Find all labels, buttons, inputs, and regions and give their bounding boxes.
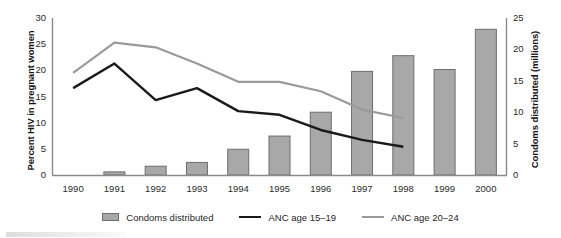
legend-label-anc-age-20-24: ANC age 20–24 xyxy=(391,212,459,223)
chart-legend: Condoms distributed ANC age 15–19 ANC ag… xyxy=(0,206,561,228)
legend-item-anc-age-15-19: ANC age 15–19 xyxy=(239,212,336,223)
line-swatch-icon-15-19 xyxy=(239,216,261,218)
line-swatch-icon-20-24 xyxy=(362,216,384,218)
bar xyxy=(186,162,207,175)
bar xyxy=(434,70,455,176)
bar xyxy=(145,166,166,175)
chart-container: Percent HIV in pregnant women Condoms di… xyxy=(0,0,561,238)
legend-label-anc-age-15-19: ANC age 15–19 xyxy=(268,212,336,223)
bar xyxy=(310,112,331,175)
legend-item-condoms-distributed: Condoms distributed xyxy=(102,212,213,223)
bar xyxy=(352,71,373,175)
bar xyxy=(269,136,290,175)
bar xyxy=(393,56,414,175)
bar-swatch-icon xyxy=(102,213,119,221)
bar xyxy=(104,172,125,175)
bar xyxy=(475,29,496,175)
page-artifact xyxy=(6,232,126,237)
bar xyxy=(228,149,249,175)
plot-area xyxy=(0,0,561,238)
legend-item-anc-age-20-24: ANC age 20–24 xyxy=(362,212,459,223)
legend-label-condoms-distributed: Condoms distributed xyxy=(126,212,213,223)
